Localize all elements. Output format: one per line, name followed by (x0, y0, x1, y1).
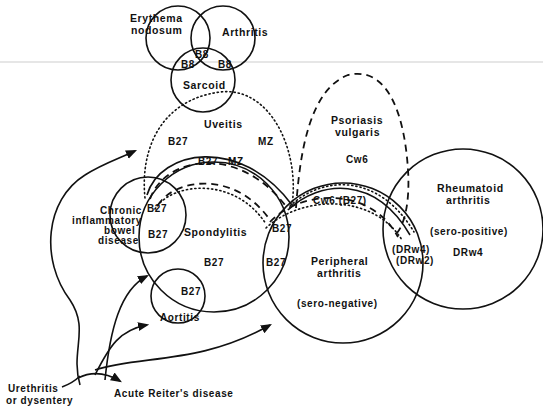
ibd-overlap-top-b27: B27 (147, 203, 167, 214)
spondylitis-b27-marker: B27 (204, 257, 224, 268)
reiter-arrows (51, 151, 270, 387)
rheumatoid-sublabel: (sero-positive) (430, 226, 508, 237)
inner-link-dotted-arc (266, 204, 402, 240)
uveitis-inner-b27: B27 (198, 156, 218, 167)
erythema-label-line1: Erythema (130, 12, 183, 24)
b8-left-marker: B8 (181, 59, 195, 70)
uveitis-inner-mz: MZ (228, 156, 244, 167)
peripheral-label-line2: arthritis (317, 267, 362, 279)
uveitis-inner-dotted-arc (155, 188, 266, 224)
spondylitis-label: Spondylitis (184, 226, 247, 238)
psoriasis-label-line1: Psoriasis (331, 114, 383, 126)
rheumatoid-label-line2: arthritis (446, 194, 491, 206)
b8-right-marker: B8 (218, 59, 232, 70)
uveitis-outer-dashed-arc (150, 163, 288, 209)
rheumatoid-label-line1: Rheumatoid (437, 182, 504, 194)
arrow-to-spondylitis (105, 276, 147, 380)
ibd-overlap-b27: B27 (148, 229, 168, 240)
uveitis-label: Uveitis (204, 118, 243, 130)
peripheral-label-line1: Peripheral (311, 255, 368, 267)
peripheral-overlap-b27: B27 (266, 257, 286, 268)
peripheral-sublabel: (sero-negative) (297, 298, 378, 309)
psoriasis-link-dotted-arc (290, 185, 414, 232)
ibd-label-line4: disease (98, 235, 139, 246)
psoriasis-label-line2: vulgaris (335, 126, 380, 138)
urethritis-label-line2: or dysentery (6, 395, 73, 406)
uveitis-outer-b27: B27 (168, 136, 188, 147)
erythema-label-line2: nodosum (131, 24, 182, 36)
rheumatoid-drw4-marker: DRw4 (453, 247, 483, 258)
urethritis-label-line1: Urethritis (8, 383, 58, 394)
arthritis-label: Arthritis (222, 26, 268, 38)
aortitis-overlap-b27: B27 (181, 286, 201, 297)
peripheral-overlap-top-b27: B27 (272, 223, 292, 234)
rheumatoid-overlap-drw4: (DRw4) (392, 244, 430, 255)
rheumatoid-overlap-drw2: (DRw2) (396, 255, 434, 266)
b8-center-marker: B8 (195, 49, 209, 60)
aortitis-label: Aortitis (160, 312, 200, 323)
psoriasis-overlap-marker: Cw6 (B27) (313, 195, 367, 206)
psoriasis-cw6-marker: Cw6 (346, 154, 368, 165)
arrow-to-acute-reiters (78, 374, 120, 381)
arrow-to-peripheral-arthritis (95, 325, 270, 370)
acute-reiters-label: Acute Reiter's disease (114, 388, 234, 399)
sarcoid-label: Sarcoid (183, 79, 226, 91)
uveitis-outer-mz: MZ (258, 136, 274, 147)
disease-association-diagram: Erythema nodosum Arthritis B8 B8 B8 Sarc… (0, 0, 543, 413)
urethritis-stem (62, 376, 80, 387)
